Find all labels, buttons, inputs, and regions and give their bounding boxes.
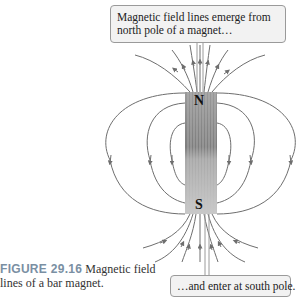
north-pole-label: N <box>194 93 204 109</box>
bar-magnet-field-diagram <box>0 0 307 307</box>
figure-caption: FIGURE 29.16 Magnetic field lines of a b… <box>0 262 165 290</box>
south-pole-label: S <box>195 197 203 213</box>
north-emerging-lines <box>135 45 265 92</box>
bar-magnet <box>185 92 217 214</box>
south-pole-callout: …and enter at south pole. <box>170 275 291 297</box>
figure-label: FIGURE 29.16 <box>0 262 82 276</box>
north-pole-callout: Magnetic field lines emerge from north p… <box>110 5 286 43</box>
south-entering-lines <box>143 214 258 262</box>
